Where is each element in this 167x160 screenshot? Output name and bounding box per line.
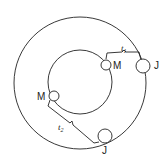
node-m-inner-left (49, 91, 59, 101)
label-j-right: J (154, 60, 159, 71)
label-m-left: M (37, 91, 45, 102)
node-j-outer-bottom (98, 129, 112, 143)
inner-ring (48, 50, 112, 114)
ring-diagram: M J M J t1 t2 (0, 0, 167, 160)
label-m-top: M (113, 60, 121, 71)
outer-ring (14, 17, 146, 149)
node-m-inner-top (101, 60, 111, 70)
node-j-outer-right (136, 59, 150, 73)
label-t2: t2 (58, 122, 64, 133)
brace-t2 (48, 100, 99, 143)
label-j-bottom: J (102, 145, 107, 156)
label-t1: t1 (121, 43, 127, 54)
